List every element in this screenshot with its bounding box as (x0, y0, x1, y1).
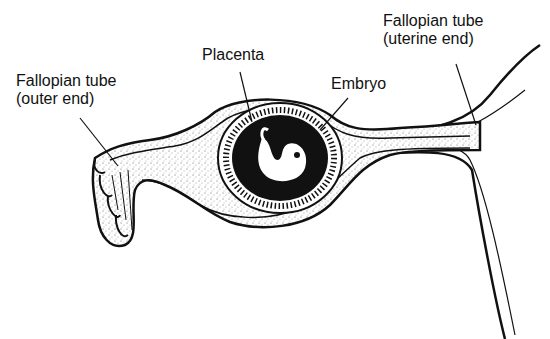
label-embryo: Embryo (331, 75, 386, 93)
fallopian-tube-illustration (0, 0, 550, 339)
label-outer-end-line1: Fallopian tube (16, 72, 117, 90)
label-uterine-end-line1: Fallopian tube (383, 12, 484, 30)
label-outer-end-line2: (outer end) (16, 90, 117, 108)
label-uterine-end-line2: (uterine end) (383, 30, 484, 48)
label-uterine-end: Fallopian tube (uterine end) (383, 12, 484, 48)
gestational-sac (218, 103, 342, 213)
diagram-canvas: Fallopian tube (outer end) Placenta Embr… (0, 0, 550, 339)
label-outer-end: Fallopian tube (outer end) (16, 72, 117, 108)
label-placenta: Placenta (202, 46, 264, 64)
